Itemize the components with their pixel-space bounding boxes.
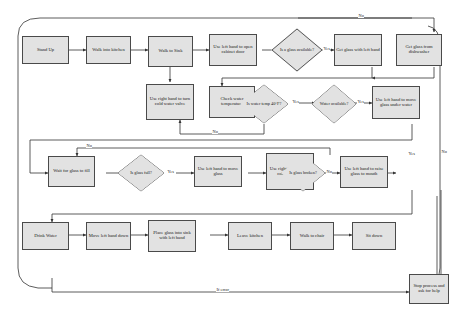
- flowchart-canvas: Stand Up Walk into kitchen Walk to Sink …: [0, 0, 452, 321]
- edge-label-glass-broken-yes: Yes: [408, 152, 415, 156]
- node-label: Is glass full?: [130, 171, 152, 176]
- node-label: Use left hand to move glass under water: [374, 98, 418, 108]
- node-label: Wait for glass to fill: [53, 169, 90, 174]
- node-label: Use left hand to move glass: [196, 167, 240, 177]
- node-label: Stop process and ask for help: [411, 284, 447, 294]
- edge-label-glass-broken-no: No: [326, 170, 332, 174]
- node-label: Use left hand to raise glass to mouth: [342, 167, 386, 177]
- edge-label-glass-full-yes: Yes: [167, 170, 174, 174]
- node-wait-for-glass-to-fill[interactable]: Wait for glass to fill: [48, 156, 95, 187]
- edge-label-water-temp-no: No: [212, 130, 218, 134]
- node-label: Is water temp 40°F?: [247, 102, 282, 107]
- node-place-glass-into-sink[interactable]: Place glass into sink with left hand: [148, 220, 196, 252]
- node-turn-cold-water-valve[interactable]: Use right hand to turn cold water valve: [146, 84, 194, 120]
- node-move-glass-under-water[interactable]: Use left hand to move glass under water: [372, 86, 420, 119]
- node-move-left-hand-down[interactable]: Move left hand down: [86, 222, 131, 250]
- node-label: Move left hand down: [89, 234, 128, 239]
- edge-label-water-temp-yes: Yes: [292, 100, 299, 104]
- edge-label-if-error: If error: [216, 288, 229, 292]
- node-label: Water available?: [320, 102, 349, 107]
- node-label: Get glass with left hand: [336, 48, 380, 53]
- edge-label-glass-available-no: No: [358, 14, 364, 18]
- node-raise-glass-to-mouth[interactable]: Use left hand to raise glass to mouth: [340, 156, 388, 188]
- node-label: Leave kitchen: [237, 234, 263, 239]
- edge-label-right-rail-no: No: [441, 150, 447, 154]
- node-label: Use right hand to turn cold water valve: [148, 97, 192, 107]
- edge-label-water-available-yes: Yes: [357, 100, 364, 104]
- node-label: Get glass from dishwasher: [398, 45, 440, 55]
- node-label: Place glass into sink with left hand: [150, 231, 194, 241]
- node-leave-kitchen[interactable]: Leave kitchen: [228, 222, 272, 250]
- node-stop-process-ask-help[interactable]: Stop process and ask for help: [409, 274, 449, 304]
- node-label: Is glass broken?: [289, 171, 317, 176]
- node-move-glass[interactable]: Use left hand to move glass: [194, 156, 242, 187]
- node-get-glass-dishwasher[interactable]: Get glass from dishwasher: [396, 34, 442, 66]
- node-get-glass-left-hand[interactable]: Get glass with left hand: [334, 34, 382, 66]
- node-label: Walk to chair: [300, 234, 325, 239]
- node-label: Drink Water: [34, 234, 57, 239]
- node-walk-to-chair[interactable]: Walk to chair: [290, 222, 334, 250]
- node-sit-down[interactable]: Sit down: [352, 222, 396, 250]
- node-drink-water[interactable]: Drink Water: [22, 222, 69, 250]
- node-label: Sit down: [366, 234, 382, 239]
- edge-label-glass-available-yes: Yes: [323, 47, 330, 51]
- edge-label-glass-full-no: No: [86, 144, 92, 148]
